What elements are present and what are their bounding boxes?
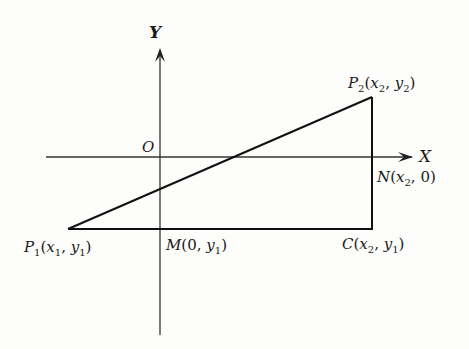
origin-label: O [142, 138, 154, 156]
point-p1-label: P1(x1, y1) [23, 238, 91, 258]
point-p2-label: P2(x2, y2) [347, 74, 415, 94]
coordinate-diagram: Y X O P2(x2, y2) N(x2, 0) P1(x1, y1) M(0… [0, 0, 469, 349]
y-axis-label: Y [149, 22, 163, 42]
point-m-label: M(0, y1) [165, 236, 227, 256]
x-axis-label: X [417, 146, 432, 166]
point-c-label: C(x2, y1) [342, 235, 404, 255]
hypotenuse-p1-p2 [68, 97, 372, 229]
point-n-label: N(x2, 0) [376, 168, 436, 188]
